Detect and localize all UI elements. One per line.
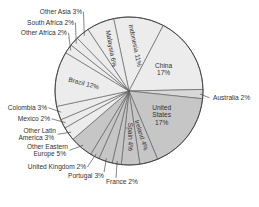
external-label-united-kingdom: United Kingdom 2% <box>28 163 86 171</box>
external-label-france: France 2% <box>106 178 138 185</box>
slice-label-spain: Spain 4% <box>126 123 134 151</box>
external-label-other-latin-america: Other LatinAmerica 3% <box>18 127 56 141</box>
external-label-australia: Australia 2% <box>213 94 250 101</box>
pie-chart: Indonesia 11%China17%UnitedStates17%Irel… <box>0 0 259 207</box>
external-label-colombia: Colombia 3% <box>8 104 47 111</box>
external-label-other-eastern-europe: Other EasternEurope 5% <box>27 143 68 158</box>
external-label-mexico: Mexico 2% <box>18 115 50 122</box>
slice-label-china: China17% <box>155 62 173 76</box>
external-label-other-asia: Other Asia 3% <box>40 8 82 15</box>
external-label-south-africa: South Africa 2% <box>27 19 74 26</box>
leader-line-united-kingdom <box>88 154 97 167</box>
external-label-other-africa: Other Africa 2% <box>21 29 67 36</box>
external-label-portugal: Portugal 3% <box>68 172 104 180</box>
